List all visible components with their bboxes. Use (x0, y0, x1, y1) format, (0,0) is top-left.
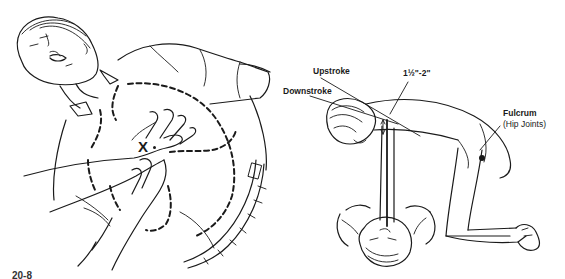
landmark-dot (153, 146, 156, 149)
hip-joints-label: (Hip Joints) (503, 119, 546, 129)
compression-posture-drawing (270, 0, 565, 279)
upstroke-label: Upstroke (313, 66, 350, 76)
compression-depth-label: 1½"-2" (403, 68, 430, 78)
sternum-landmark-x: X (138, 139, 148, 154)
downstroke-label: Downstroke (283, 86, 332, 96)
fulcrum-label: Fulcrum (503, 108, 537, 118)
compression-posture-illustration: Upstroke Downstroke 1½"-2" Fulcrum (Hip … (270, 0, 565, 279)
figure-number: 20-8 (12, 270, 32, 279)
hand-placement-illustration: X (0, 0, 290, 279)
